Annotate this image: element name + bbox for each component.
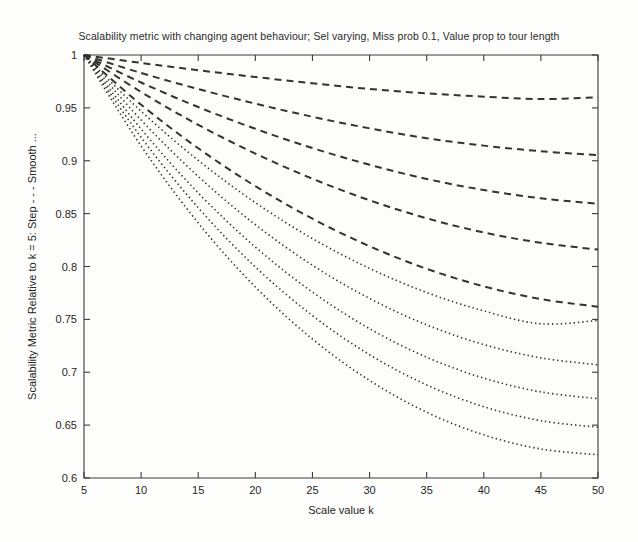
- axis-box: [84, 55, 598, 478]
- x-tick-label: 45: [535, 484, 547, 496]
- chart-series-line: [84, 55, 598, 307]
- y-tick-label: 0.7: [62, 366, 77, 378]
- x-tick-label: 30: [363, 484, 375, 496]
- chart-plot-area: 51015202530354045500.60.650.70.750.80.85…: [0, 0, 638, 542]
- y-tick-label: 0.95: [56, 102, 77, 114]
- x-tick-label: 40: [478, 484, 490, 496]
- y-tick-label: 0.9: [62, 155, 77, 167]
- x-tick-label: 35: [421, 484, 433, 496]
- y-tick-label: 0.85: [56, 208, 77, 220]
- y-tick-label: 0.6: [62, 472, 77, 484]
- chart-series-line: [84, 55, 598, 427]
- chart-series-line: [84, 55, 598, 399]
- x-tick-label: 25: [306, 484, 318, 496]
- y-tick-label: 0.75: [56, 313, 77, 325]
- figure-container: Scalability metric with changing agent b…: [0, 0, 638, 542]
- y-tick-label: 0.8: [62, 261, 77, 273]
- y-tick-label: 0.65: [56, 419, 77, 431]
- chart-series-line: [84, 55, 598, 204]
- x-tick-label: 5: [81, 484, 87, 496]
- chart-series-line: [84, 55, 598, 155]
- x-tick-label: 50: [592, 484, 604, 496]
- x-tick-label: 20: [249, 484, 261, 496]
- y-axis-title: Scalability Metric Relative to k = 5: St…: [26, 133, 38, 400]
- y-tick-label: 1: [71, 49, 77, 61]
- x-axis-title: Scale value k: [308, 504, 374, 516]
- chart-series-line: [84, 55, 598, 250]
- x-tick-label: 10: [135, 484, 147, 496]
- chart-series-line: [84, 55, 598, 365]
- x-tick-label: 15: [192, 484, 204, 496]
